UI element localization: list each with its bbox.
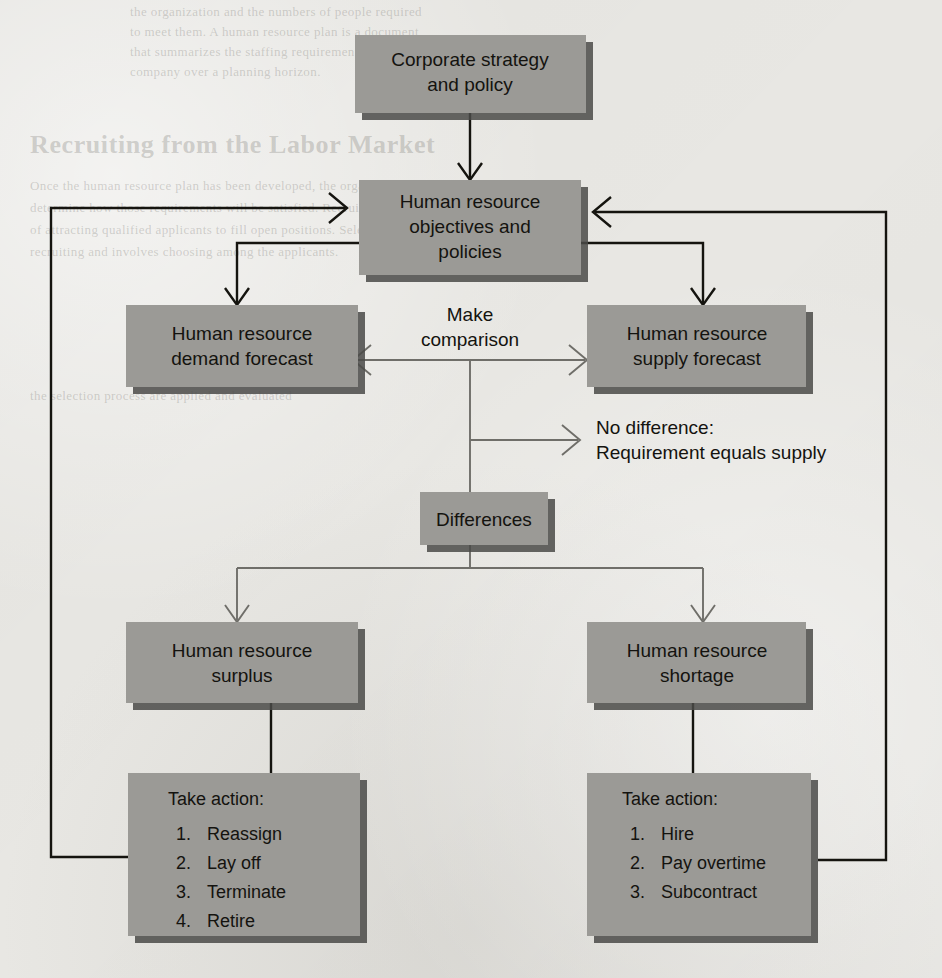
shortage-action-num: 2.	[630, 853, 645, 873]
surplus-action-num: 2.	[176, 853, 191, 873]
box-supply-forecast[interactable]: Human resource supply forecast	[587, 305, 813, 394]
box-objectives-line2: objectives and	[409, 216, 530, 237]
box-corporate-line2: and policy	[427, 74, 513, 95]
box-demand-forecast[interactable]: Human resource demand forecast	[126, 305, 365, 394]
label-make-comparison: Make comparison	[421, 304, 519, 350]
shortage-actions-heading: Take action:	[622, 789, 718, 809]
no-difference-line1: No difference:	[596, 417, 714, 438]
connector-corporate-to-objectives	[458, 113, 482, 180]
box-shortage-line1: Human resource	[627, 640, 767, 661]
surplus-action-text: Terminate	[207, 882, 286, 902]
box-surplus-actions[interactable]: Take action: 1. Reassign 2. Lay off 3. T…	[128, 773, 367, 943]
box-corporate-strategy[interactable]: Corporate strategy and policy	[355, 35, 593, 120]
connector-no-difference	[470, 425, 580, 455]
diagram-page: the organization and the numbers of peop…	[0, 0, 942, 978]
box-objectives-line1: Human resource	[400, 191, 540, 212]
surplus-action-num: 1.	[176, 824, 191, 844]
box-surplus-line2: surplus	[211, 665, 272, 686]
box-objectives-line3: policies	[438, 241, 501, 262]
box-differences[interactable]: Differences	[420, 492, 555, 552]
connector-objectives-to-supply	[581, 243, 715, 305]
shortage-action-text: Hire	[661, 824, 694, 844]
box-demand-line1: Human resource	[172, 323, 312, 344]
box-hr-shortage[interactable]: Human resource shortage	[587, 622, 813, 710]
shortage-action-text: Subcontract	[661, 882, 757, 902]
surplus-action-text: Reassign	[207, 824, 282, 844]
box-surplus-line1: Human resource	[172, 640, 312, 661]
box-shortage-actions[interactable]: Take action: 1. Hire 2. Pay overtime 3. …	[587, 773, 818, 943]
connector-objectives-to-demand	[225, 243, 359, 305]
make-comparison-line1: Make	[447, 304, 493, 325]
surplus-action-num: 4.	[176, 911, 191, 931]
connector-feedback-right	[593, 197, 886, 860]
shortage-action-num: 1.	[630, 824, 645, 844]
make-comparison-line2: comparison	[421, 329, 519, 350]
flowchart: Corporate strategy and policy Human reso…	[0, 0, 942, 978]
surplus-action-num: 3.	[176, 882, 191, 902]
box-demand-line2: demand forecast	[171, 348, 313, 369]
box-differences-label: Differences	[436, 509, 532, 530]
surplus-actions-heading: Take action:	[168, 789, 264, 809]
box-corporate-line1: Corporate strategy	[391, 49, 549, 70]
shortage-action-text: Pay overtime	[661, 853, 766, 873]
box-hr-surplus[interactable]: Human resource surplus	[126, 622, 365, 710]
label-no-difference: No difference: Requirement equals supply	[596, 417, 827, 463]
connector-feedback-left	[51, 193, 347, 857]
connector-differences-split	[225, 545, 715, 622]
surplus-action-text: Lay off	[207, 853, 262, 873]
box-hr-objectives[interactable]: Human resource objectives and policies	[359, 180, 588, 282]
no-difference-line2: Requirement equals supply	[596, 442, 827, 463]
box-supply-line2: supply forecast	[633, 348, 762, 369]
box-supply-line1: Human resource	[627, 323, 767, 344]
surplus-action-text: Retire	[207, 911, 255, 931]
shortage-action-num: 3.	[630, 882, 645, 902]
box-shortage-line2: shortage	[660, 665, 734, 686]
